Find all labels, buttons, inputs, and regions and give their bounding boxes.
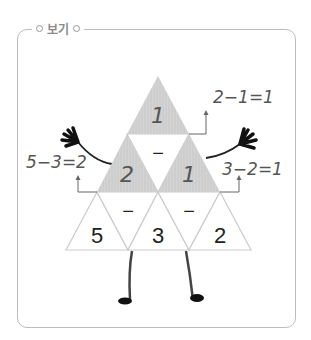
subtraction-pyramid-diagram: 1 2 1 − 5 3 2 − − 2−1=1 5−3=2 3−2=1 [0,0,311,340]
top-arrow-icon [189,113,206,134]
bottom-value-1: 5 [91,223,103,248]
middle-operator: − [152,142,164,164]
middle-value-1: 2 [120,162,134,187]
annotation-left: 5−3=2 [26,152,87,172]
annotation-right: 3−2=1 [222,159,283,179]
legs-icon [118,251,204,305]
top-value: 1 [151,103,165,128]
right-arrow-icon [220,178,239,192]
left-arrow-icon [78,178,97,192]
right-arm-icon [206,129,256,158]
middle-value-2: 1 [182,162,196,187]
bottom-operator-2: − [183,200,195,222]
bottom-value-2: 3 [152,223,164,248]
bottom-operator-1: − [122,200,134,222]
annotation-top: 2−1=1 [213,87,274,107]
bottom-value-3: 2 [214,223,226,248]
